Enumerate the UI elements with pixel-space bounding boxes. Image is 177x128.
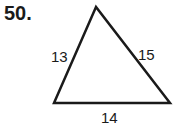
triangle-diagram: 13 15 14 — [0, 0, 177, 128]
side-label-right: 15 — [138, 46, 155, 63]
side-label-bottom: 14 — [101, 109, 118, 126]
side-label-left: 13 — [51, 48, 68, 65]
